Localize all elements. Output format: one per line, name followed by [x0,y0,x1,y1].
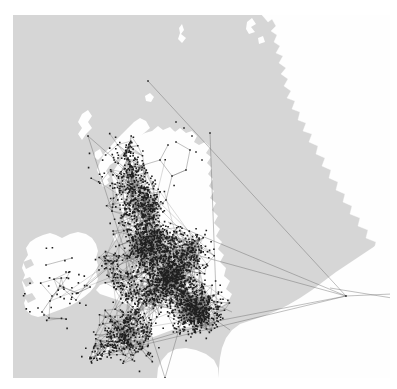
map-canvas[interactable] [0,0,397,389]
network-map-figure: Dense geographic node-link network over … [0,0,397,389]
